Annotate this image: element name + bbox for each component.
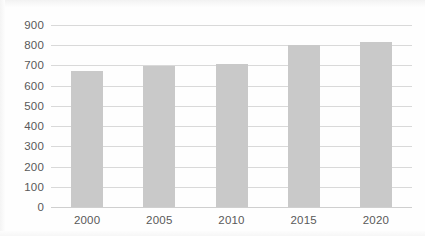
y-axis-tick-labels: 9008007006005004003002001000 — [0, 20, 44, 212]
bar-2015 — [288, 45, 320, 207]
y-axis-tick-label: 700 — [24, 59, 44, 71]
y-axis-tick-label: 100 — [24, 181, 44, 193]
y-axis-tick-label: 400 — [24, 120, 44, 132]
x-axis-tick-label: 2015 — [290, 214, 316, 226]
y-axis-tick-label: 0 — [37, 201, 44, 213]
plot-area — [51, 20, 412, 212]
bar-2005 — [143, 66, 175, 207]
bar-2020 — [360, 42, 392, 207]
scan-artifact-top — [0, 0, 425, 7]
bar-2010 — [216, 64, 248, 207]
x-axis-tick-labels: 20002005201020152020 — [51, 211, 412, 233]
y-axis-tick-label: 900 — [24, 19, 44, 31]
x-axis-tick-label: 2005 — [146, 214, 172, 226]
bar-series — [51, 20, 412, 212]
y-axis-tick-label: 800 — [24, 39, 44, 51]
y-axis-tick-label: 200 — [24, 161, 44, 173]
y-axis-tick-label: 300 — [24, 140, 44, 152]
x-axis-tick-label: 2000 — [74, 214, 100, 226]
y-axis-tick-label: 500 — [24, 100, 44, 112]
x-axis-tick-label: 2020 — [363, 214, 389, 226]
bar-chart: 9008007006005004003002001000 20002005201… — [0, 0, 425, 236]
bar-2000 — [71, 71, 103, 208]
y-axis-tick-label: 600 — [24, 80, 44, 92]
x-axis-tick-label: 2010 — [218, 214, 244, 226]
